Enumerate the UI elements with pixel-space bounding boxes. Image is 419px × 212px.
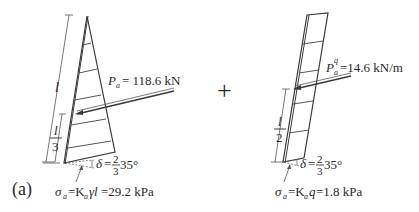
base-angle-marks: [65, 160, 94, 168]
resultant-force-label: P q a =14.6 kN/m: [325, 56, 403, 77]
svg-text:=K: =K: [68, 184, 85, 199]
svg-text:35°: 35°: [120, 157, 138, 172]
wall-friction-label: δ = 2 3 35°: [96, 153, 138, 177]
svg-text:=: =: [104, 156, 111, 171]
earth-pressure-figure: l l 3 P a = 118.6 kN δ = 2: [0, 0, 419, 212]
triangular-pressure-diagram: [64, 16, 115, 163]
svg-text:a: a: [84, 192, 88, 201]
svg-text:3: 3: [317, 165, 323, 177]
svg-text:= 118.6 kN: = 118.6 kN: [122, 73, 181, 88]
svg-text:P: P: [107, 73, 116, 88]
svg-text:σ: σ: [55, 184, 62, 199]
svg-text:l: l: [54, 123, 58, 138]
svg-text:δ: δ: [300, 156, 307, 171]
svg-text:δ: δ: [96, 156, 103, 171]
svg-text:2: 2: [276, 130, 283, 145]
svg-text:=1.8 kPa: =1.8 kPa: [316, 184, 363, 199]
panel-label: (a): [12, 179, 32, 200]
svg-text:2: 2: [113, 153, 119, 165]
plus-operator: +: [217, 76, 232, 105]
svg-text:35°: 35°: [324, 157, 342, 172]
svg-text:3: 3: [52, 139, 59, 154]
svg-text:q: q: [334, 56, 338, 65]
svg-text:a: a: [334, 68, 338, 77]
svg-text:γl: γl: [89, 184, 98, 199]
height-label: l: [55, 80, 59, 95]
resultant-height-fraction: l 2: [274, 114, 286, 145]
svg-text:a: a: [283, 192, 287, 201]
svg-text:P: P: [325, 60, 334, 75]
resultant-force-arrow: [293, 73, 351, 90]
resultant-force-arrow: [75, 88, 174, 115]
svg-text:3: 3: [113, 165, 119, 177]
svg-text:σ: σ: [275, 184, 282, 199]
svg-text:=: =: [308, 156, 315, 171]
left-diagram: l l 3 P a = 118.6 kN δ = 2: [42, 15, 181, 201]
resultant-force-label: P a = 118.6 kN: [107, 73, 181, 90]
svg-text:2: 2: [317, 153, 323, 165]
svg-text:l: l: [278, 114, 282, 129]
svg-text:=K: =K: [288, 184, 305, 199]
right-diagram: l 2 P q a =14.6 kN/m δ = 2 3 35°: [271, 13, 403, 201]
svg-text:=14.6 kN/m: =14.6 kN/m: [340, 60, 403, 75]
svg-text:a: a: [63, 192, 67, 201]
wall-friction-label: δ = 2 3 35°: [300, 153, 342, 177]
base-pressure-label: σ a =K a q =1.8 kPa: [275, 184, 363, 201]
base-pressure-label: σ a =K a γl =29.2 kPa: [55, 184, 154, 201]
svg-text:a: a: [304, 192, 308, 201]
svg-text:a: a: [116, 81, 120, 90]
svg-text:q: q: [309, 184, 316, 199]
svg-text:=29.2 kPa: =29.2 kPa: [101, 184, 154, 199]
